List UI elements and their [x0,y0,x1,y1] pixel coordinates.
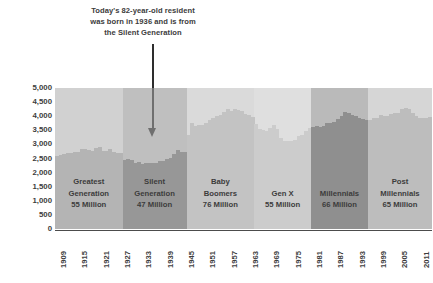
generation-name-line: Generation [55,188,123,200]
y-axis-tick: 0 [8,225,52,233]
generation-name-line: Millennials [368,188,432,200]
generation-size-label: 66 Million [311,199,368,211]
x-axis-line [55,230,432,231]
x-axis-tick: 1999 [380,251,388,268]
generation-size-label: 65 Million [368,199,432,211]
annotation-line-1: Today's 82-year-old resident [62,5,224,16]
generation-caption: BabyBoomers76 Million [187,176,255,211]
generation-size-label: 55 Million [55,199,123,211]
y-axis-tick: 2,500 [8,155,52,163]
x-axis-tick: 2005 [401,251,409,268]
generation-name-line: Boomers [187,188,255,200]
generation-name-line: Gen X [254,188,311,200]
generation-band-captions: GreatestGeneration55 MillionSilentGenera… [55,88,432,229]
x-axis-tick: 1909 [60,251,68,268]
annotation-line-2: was born in 1936 and is from [62,16,224,27]
generation-name-line: Baby [187,176,255,188]
x-axis-tick: 1939 [167,251,175,268]
y-axis-tick: 500 [8,211,52,219]
generation-caption: SilentGeneration47 Million [123,176,187,211]
y-axis-tick: 5,000 [8,84,52,92]
x-axis-tick: 1915 [81,251,89,268]
y-axis-tick: 4,500 [8,98,52,106]
annotation-callout: Today's 82-year-old resident was born in… [62,5,224,39]
annotation-line-3: the Silent Generation [62,27,224,38]
x-axis-tick: 1951 [209,251,217,268]
generation-caption: PostMillennials65 Million [368,176,432,211]
generation-caption: Millennials66 Million [311,188,368,211]
x-axis-labels: 1909191519211927193319391945195119571963… [55,234,432,280]
generation-size-label: 76 Million [187,199,255,211]
x-axis-tick: 1993 [359,251,367,268]
x-axis-tick: 1945 [188,251,196,268]
generation-name-line: Millennials [311,188,368,200]
generation-name-line: Greatest [55,176,123,188]
y-axis-tick: 1,500 [8,183,52,191]
x-axis-tick: 1921 [103,251,111,268]
y-axis-tick: 2,000 [8,169,52,177]
x-axis-tick: 1957 [231,251,239,268]
x-axis-tick: 1969 [273,251,281,268]
x-axis-tick: 1975 [295,251,303,268]
generation-caption: GreatestGeneration55 Million [55,176,123,211]
y-axis-tick: 3,500 [8,126,52,134]
generation-caption: Gen X55 Million [254,188,311,211]
generation-size-label: 55 Million [254,199,311,211]
generation-name-line: Generation [123,188,187,200]
generations-histogram-chart: Today's 82-year-old resident was born in… [0,0,433,283]
generation-name-line: Post [368,176,432,188]
generation-name-line: Silent [123,176,187,188]
x-axis-tick: 1963 [252,251,260,268]
x-axis-tick: 1933 [145,251,153,268]
x-axis-tick: 1927 [124,251,132,268]
y-axis-tick: 4,000 [8,112,52,120]
y-axis-tick: 3,000 [8,140,52,148]
x-axis-tick: 1981 [316,251,324,268]
y-axis-labels: 5,0004,5004,0003,5003,0002,5002,0001,500… [8,84,52,236]
x-axis-tick: 1987 [337,251,345,268]
x-axis-tick: 2011 [423,252,431,268]
y-axis-tick: 1,000 [8,197,52,205]
generation-size-label: 47 Million [123,199,187,211]
